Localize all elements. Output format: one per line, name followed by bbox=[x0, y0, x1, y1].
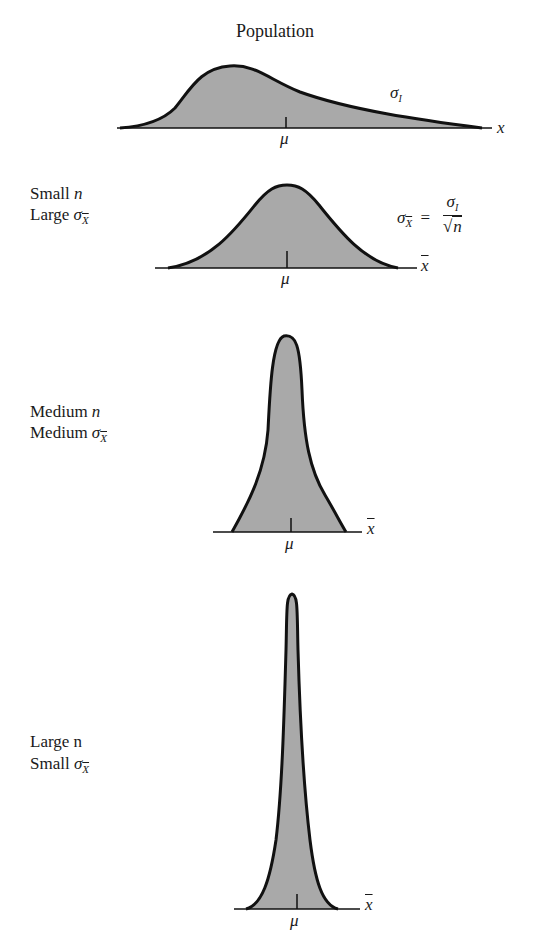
medium-sd-label: Medium σX bbox=[30, 422, 107, 445]
formula-fraction: σI √n bbox=[443, 192, 462, 238]
figure-title: Population bbox=[236, 20, 314, 42]
medium-n-label: Medium n bbox=[30, 401, 100, 423]
large-n-axis-label: x bbox=[365, 894, 373, 916]
population-axis-label: x bbox=[497, 117, 505, 139]
population-sd-label: σI bbox=[390, 82, 402, 106]
medium-n-distribution bbox=[213, 336, 362, 532]
large-n-distribution bbox=[234, 594, 360, 909]
large-n-mean-label: μ bbox=[290, 910, 299, 932]
formula-denominator: √n bbox=[443, 216, 462, 238]
small-n-label: Small n bbox=[30, 183, 82, 205]
formula-numerator: σI bbox=[443, 192, 462, 216]
small-n-mean-label: μ bbox=[281, 268, 290, 290]
population-distribution bbox=[117, 66, 492, 128]
sampling-distribution-figure: Population σI x μ Small n Large σX x μ σ… bbox=[0, 0, 535, 947]
formula-lhs: σX = bbox=[397, 207, 430, 230]
curves-layer bbox=[0, 0, 535, 947]
small-n-axis-label: x bbox=[421, 255, 429, 277]
large-sd-label: Large σX bbox=[30, 204, 89, 227]
population-mean-label: μ bbox=[280, 128, 289, 150]
small-sd-label: Small σX bbox=[30, 753, 89, 776]
medium-n-mean-label: μ bbox=[285, 533, 294, 555]
medium-n-axis-label: x bbox=[367, 518, 375, 540]
large-n-label: Large n bbox=[30, 731, 82, 753]
small-n-distribution bbox=[155, 185, 417, 268]
